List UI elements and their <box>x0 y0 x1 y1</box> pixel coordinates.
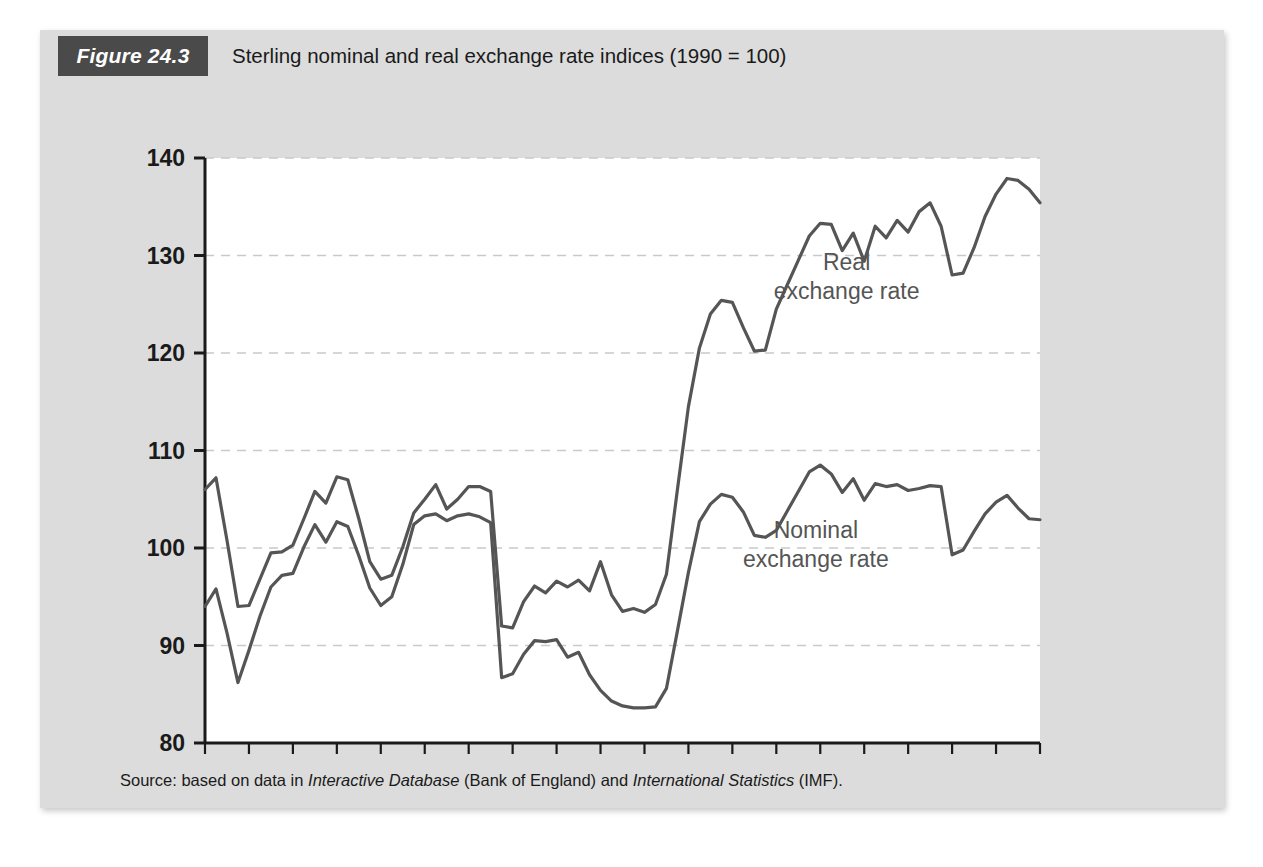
source-italic-interactive-database: Interactive Database <box>308 771 459 789</box>
y-tick-label-140: 140 <box>147 145 185 171</box>
figure-card: Figure 24.3 Sterling nominal and real ex… <box>40 30 1224 808</box>
source-suffix: (IMF). <box>794 771 843 789</box>
figure-number-badge: Figure 24.3 <box>58 36 208 76</box>
exchange-rate-line-chart: 8090100110120130140 19861988199019921994… <box>40 88 1224 758</box>
y-tick-label-130: 130 <box>147 243 185 269</box>
x-axis <box>205 743 1040 754</box>
y-tick-labels: 8090100110120130140 <box>147 145 185 756</box>
y-tick-label-80: 80 <box>159 730 185 756</box>
y-tick-label-120: 120 <box>147 340 185 366</box>
y-tick-label-90: 90 <box>159 633 185 659</box>
source-italic-international-statistics: International Statistics <box>633 771 794 789</box>
figure-header: Figure 24.3 Sterling nominal and real ex… <box>40 36 1224 76</box>
source-prefix: Source: based on data in <box>120 771 308 789</box>
figure-title: Sterling nominal and real exchange rate … <box>232 36 786 76</box>
y-axis <box>194 158 205 743</box>
y-tick-label-100: 100 <box>147 535 185 561</box>
figure-source-note: Source: based on data in Interactive Dat… <box>120 771 843 790</box>
chart-plot-area: 8090100110120130140 19861988199019921994… <box>40 88 1224 758</box>
y-tick-label-110: 110 <box>148 438 185 464</box>
source-mid: (Bank of England) and <box>459 771 632 789</box>
